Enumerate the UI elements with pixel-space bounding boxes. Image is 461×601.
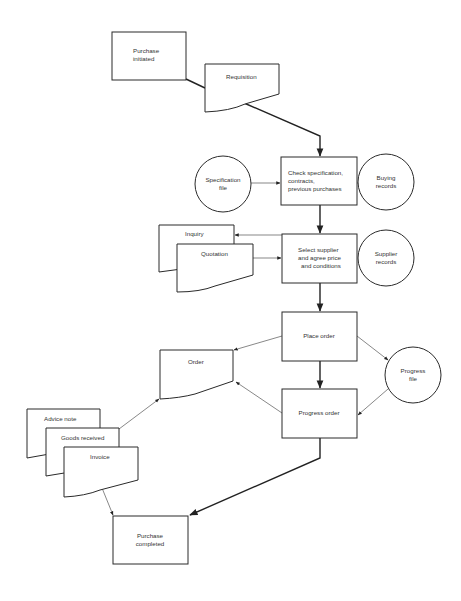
edge-place-to-progressfile [357, 336, 388, 360]
node-progress-file: Progress file [385, 347, 441, 403]
node-progress-order: Progress order [282, 389, 357, 438]
node-label: Advice note [44, 415, 77, 422]
edge-goods-to-order [119, 399, 159, 429]
node-supplier-records: Supplier records [358, 230, 414, 286]
node-requisition: Requisition [205, 64, 279, 112]
node-label: Specification [205, 176, 241, 183]
node-label: records [376, 182, 397, 189]
document-shape [205, 64, 279, 112]
node-label: Progress [401, 367, 426, 374]
node-quotation: Quotation [177, 244, 253, 292]
node-label: file [219, 184, 227, 191]
node-place-order: Place order [282, 312, 357, 361]
node-label: and conditions [301, 262, 341, 269]
node-label: initiated [133, 55, 155, 62]
node-label: Buying [377, 174, 396, 181]
node-label: file [409, 375, 417, 382]
node-buying-records: Buying records [358, 154, 414, 210]
node-label: Purchase [133, 47, 160, 54]
node-spec-file: Specification file [195, 156, 251, 212]
node-purchase-initiated: Purchase initiated [112, 32, 186, 80]
edge-invoice-to-completed [102, 488, 113, 515]
node-purchase-completed: Purchase completed [113, 516, 188, 564]
edge-progress-to-order [236, 382, 282, 413]
node-label: Inquiry [185, 230, 204, 237]
edge-progressfile-to-progress [358, 389, 388, 415]
node-label: Progress order [299, 409, 340, 416]
node-label: and agree price [298, 254, 342, 261]
edge-progress-to-completed [190, 438, 320, 515]
node-label: previous purchases [288, 185, 342, 192]
node-label: Goods received [61, 434, 105, 441]
edges [102, 79, 388, 515]
node-invoice: Invoice [64, 447, 138, 497]
node-select-supplier: Select supplier and agree price and cond… [282, 234, 357, 283]
node-label: Order [188, 358, 204, 365]
node-label: Supplier [375, 250, 398, 257]
node-label: Requisition [226, 73, 257, 80]
edge-requisition-to-check [244, 103, 320, 156]
node-label: completed [136, 540, 165, 547]
node-label: Check specification, [288, 169, 343, 176]
node-label: contracts, [288, 177, 315, 184]
node-label: Invoice [90, 453, 110, 460]
flowchart-canvas: Purchase initiated Requisition Specifica… [0, 0, 461, 601]
edge-place-to-order [234, 336, 282, 350]
node-order: Order [160, 350, 233, 399]
node-check-specification: Check specification, contracts, previous… [281, 157, 357, 205]
node-label: Quotation [201, 250, 228, 257]
node-label: Place order [303, 332, 335, 339]
node-label: records [376, 258, 397, 265]
edge-initiated-to-requisition [186, 79, 205, 88]
node-label: Purchase [137, 532, 164, 539]
node-label: Select supplier [298, 246, 339, 253]
